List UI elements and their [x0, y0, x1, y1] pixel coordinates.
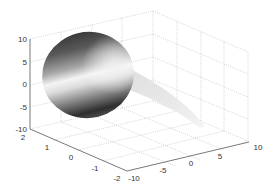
- y-tick-labels: 2 1 0 -1 -2: [21, 133, 121, 183]
- z-tick-labels: 10 5 0 -5 -10: [15, 35, 27, 134]
- x-tick-labels: -10 -5 0 5 10: [128, 143, 263, 183]
- x-tick-label: 10: [254, 143, 263, 152]
- y-tick-label: 2: [21, 133, 26, 142]
- x-tick-label: -10: [128, 174, 140, 183]
- y-tick-label: 0: [69, 153, 74, 162]
- z-tick-label: 10: [18, 35, 27, 44]
- z-tick-label: -5: [20, 103, 28, 112]
- z-tick-label: 5: [23, 58, 28, 67]
- surface-body: [33, 22, 143, 128]
- y-tick-label: 1: [45, 143, 50, 152]
- x-tick-label: 0: [189, 159, 194, 168]
- y-tick-label: -2: [113, 174, 121, 183]
- x-tick-label: 5: [218, 152, 223, 161]
- y-tick-label: -1: [91, 164, 99, 173]
- x-tick-label: -5: [159, 166, 167, 175]
- surface-plot-3d: 10 5 0 -5 -10 2 1 0 -1 -2 -10 -5 0 5 10: [0, 0, 272, 193]
- z-tick-label: 0: [23, 80, 28, 89]
